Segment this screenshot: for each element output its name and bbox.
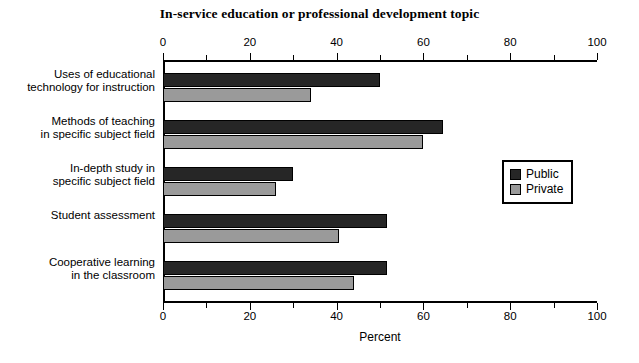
legend-swatch-private-icon	[510, 184, 521, 195]
bottom-tick-label-40: 40	[317, 310, 357, 322]
category-label: In-depth study in specific subject field	[0, 162, 155, 188]
bar-group: Cooperative learning in the classroom	[163, 261, 597, 290]
legend-label-private: Private	[526, 183, 563, 196]
bar-private	[163, 135, 423, 149]
bottom-tick-60	[423, 303, 424, 310]
bar-public	[163, 214, 387, 228]
bottom-tick-70	[467, 303, 468, 308]
top-tick-60	[423, 53, 424, 60]
bottom-tick-10	[206, 303, 207, 308]
top-tick-50	[380, 55, 381, 60]
top-tick-20	[250, 53, 251, 60]
legend-swatch-public-icon	[510, 169, 521, 180]
top-tick-label-80: 80	[490, 36, 530, 48]
category-label: Methods of teaching in specific subject …	[0, 115, 155, 141]
legend-item-private: Private	[510, 182, 563, 197]
bar-private	[163, 88, 311, 102]
top-tick-10	[206, 55, 207, 60]
bar-public	[163, 73, 380, 87]
legend: Public Private	[502, 160, 573, 204]
legend-item-public: Public	[510, 167, 563, 182]
top-tick-100	[597, 53, 598, 60]
top-tick-label-100: 100	[577, 36, 617, 48]
bottom-tick-label-100: 100	[577, 310, 617, 322]
category-label: Student assessment	[0, 209, 155, 222]
bottom-tick-30	[293, 303, 294, 308]
top-tick-90	[554, 55, 555, 60]
bottom-tick-0	[163, 303, 164, 310]
bar-group: Methods of teaching in specific subject …	[163, 120, 597, 149]
bar-private	[163, 276, 354, 290]
bottom-tick-80	[510, 303, 511, 310]
top-tick-label-60: 60	[403, 36, 443, 48]
bar-private	[163, 182, 276, 196]
bottom-tick-label-0: 0	[143, 310, 183, 322]
category-label: Cooperative learning in the classroom	[0, 256, 155, 282]
bar-private	[163, 229, 339, 243]
bottom-tick-label-60: 60	[403, 310, 443, 322]
top-tick-70	[467, 55, 468, 60]
x-axis-title: Percent	[163, 330, 597, 344]
bar-public	[163, 261, 387, 275]
top-tick-30	[293, 55, 294, 60]
bar-chart: In-service education or professional dev…	[0, 0, 639, 363]
top-tick-label-40: 40	[317, 36, 357, 48]
chart-title: In-service education or professional dev…	[0, 6, 639, 22]
bar-group: Student assessment	[163, 214, 597, 243]
legend-label-public: Public	[526, 168, 559, 181]
bar-public	[163, 167, 293, 181]
bar-group: Uses of educational technology for instr…	[163, 73, 597, 102]
bottom-tick-label-80: 80	[490, 310, 530, 322]
top-axis-line	[163, 60, 597, 62]
bottom-tick-label-20: 20	[230, 310, 270, 322]
top-tick-80	[510, 53, 511, 60]
category-label: Uses of educational technology for instr…	[0, 68, 155, 94]
bottom-tick-90	[554, 303, 555, 308]
top-tick-label-0: 0	[143, 36, 183, 48]
top-tick-label-20: 20	[230, 36, 270, 48]
bottom-tick-50	[380, 303, 381, 308]
bar-public	[163, 120, 443, 134]
top-tick-40	[337, 53, 338, 60]
top-tick-0	[163, 53, 164, 60]
bottom-tick-20	[250, 303, 251, 310]
bottom-tick-40	[337, 303, 338, 310]
bottom-tick-100	[597, 303, 598, 310]
